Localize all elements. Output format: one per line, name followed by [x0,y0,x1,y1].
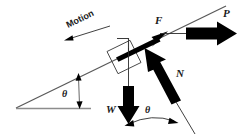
motion-indicator: Motion [64,8,110,41]
motion-arrow-line [70,26,110,39]
free-body-diagram: θ Motion F P W [0,0,243,140]
motion-arrowhead [64,35,74,40]
weight-normal-angle-arrowhead-right [168,118,179,124]
applied-force-arrow [186,22,237,46]
weight-normal-angle-arc [129,118,175,124]
friction-force-label: F [154,14,163,26]
applied-force-label: P [223,7,230,19]
incline-angle-arrow-line [79,77,80,105]
incline-angle-marker [76,73,83,109]
diagram-canvas: θ Motion F P W [0,0,243,140]
normal-force-label: N [175,67,185,79]
right-angle-marker [117,39,129,52]
normal-extension-line [176,102,195,134]
weight-force-label: W [106,103,117,115]
incline-angle-label: θ [62,88,68,99]
weight-normal-angle-label: θ [145,104,151,115]
motion-label: Motion [65,8,96,30]
weight-normal-angle-marker [125,118,179,127]
